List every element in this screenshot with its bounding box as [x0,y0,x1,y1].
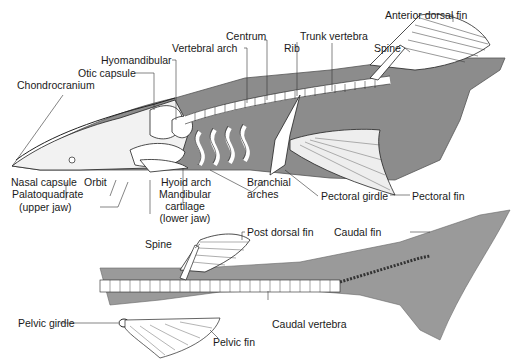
label-branchial: Branchial [247,176,291,188]
label-pectoral-fin: Pectoral fin [412,190,465,202]
label-caudal-fin: Caudal fin [334,226,381,238]
label-arches: arches [247,188,279,200]
label-hyomandibular: Hyomandibular [101,54,172,66]
label-upper-jaw: (upper jaw) [19,201,72,213]
label-spine-top: Spine [374,42,401,54]
label-pectoral-girdle: Pectoral girdle [321,190,388,202]
label-pelvic-girdle: Pelvic girdle [18,317,75,329]
label-palatoquadrate: Palatoquadrate [12,188,83,200]
label-centrum: Centrum [226,30,266,42]
label-rib: Rib [284,42,300,54]
label-spine-bottom: Spine [145,238,172,250]
label-caudal-vertebra: Caudal vertebra [272,318,347,330]
label-trunk-vertebra: Trunk vertebra [300,30,368,42]
label-post-dorsal-fin: Post dorsal fin [247,226,314,238]
label-pelvic-fin: Pelvic fin [213,336,255,348]
label-nasal-capsule: Nasal capsule [11,176,77,188]
label-orbit: Orbit [84,176,107,188]
label-vertebral-arch: Vertebral arch [172,42,237,54]
label-anterior-dorsal-fin: Anterior dorsal fin [385,9,467,21]
label-cartilage: cartilage [155,200,215,212]
label-chondrocranium: Chondrocranium [17,79,95,91]
label-hyoid-arch: Hyoid arch [161,176,211,188]
label-otic-capsule: Otic capsule [78,67,136,79]
label-lower-jaw: (lower jaw) [155,212,215,224]
label-mandibular: Mandibular [155,188,215,200]
